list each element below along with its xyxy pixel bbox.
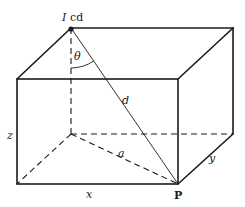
label-z: z (6, 129, 13, 142)
light-source-point (68, 26, 73, 31)
label-theta: θ (74, 50, 81, 63)
label-unit: cd (70, 11, 83, 24)
label-y: y (208, 152, 216, 165)
front-face (17, 79, 178, 184)
label-x: x (86, 188, 93, 201)
label-d: d (122, 94, 129, 107)
room-illumination-diagram: I cd θ d a z x y P (0, 0, 245, 207)
label-p: P (174, 189, 182, 202)
floor-right-edge (178, 134, 233, 184)
label-intensity: I (61, 11, 67, 24)
label-a: a (118, 147, 125, 160)
top-right-edge (178, 28, 233, 79)
hidden-left-floor-edge (17, 134, 71, 184)
top-left-edge (17, 28, 71, 79)
